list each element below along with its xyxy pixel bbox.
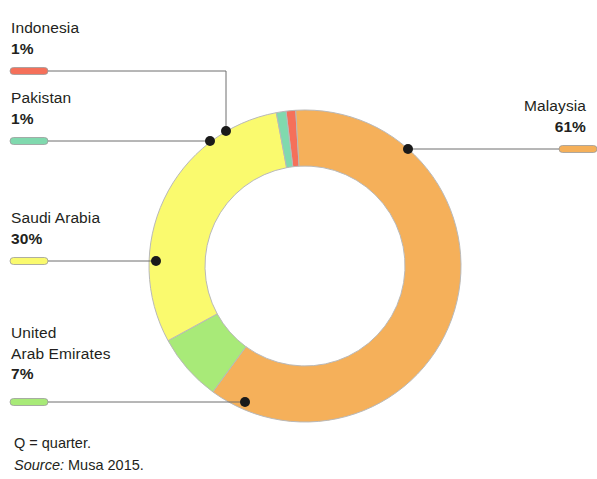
callout-label-uae-value: 7%: [11, 364, 111, 385]
donut-slices: [149, 110, 461, 422]
callout-label-indonesia: Indonesia 1%: [11, 18, 79, 59]
leader-line-indonesia: [46, 71, 226, 131]
leader-dot-pakistan: [205, 136, 215, 146]
leader-dot-malaysia: [403, 144, 413, 154]
legend-swatch-malaysia: [559, 146, 597, 153]
leader-dot-saudi-arabia: [151, 256, 161, 266]
legend-swatch-pakistan: [10, 138, 48, 145]
callout-label-indonesia-name: Indonesia: [11, 18, 79, 39]
callout-label-saudi-arabia-value: 30%: [11, 229, 100, 250]
donut-slice-saudi-arabia[interactable]: [149, 113, 287, 341]
callout-label-malaysia: Malaysia 61%: [524, 96, 586, 137]
footnote-quarter: Q = quarter.: [14, 432, 144, 454]
callout-label-saudi-arabia-name: Saudi Arabia: [11, 208, 100, 229]
leader-dot-united-arab-emirates: [240, 397, 250, 407]
leader-dot-indonesia: [221, 126, 231, 136]
legend-swatch-united-arab-emirates: [10, 399, 48, 406]
callout-label-saudi-arabia: Saudi Arabia 30%: [11, 208, 100, 249]
callout-label-pakistan-name: Pakistan: [11, 88, 71, 109]
donut-chart-figure: Indonesia 1% Pakistan 1% Saudi Arabia 30…: [0, 0, 597, 479]
callout-label-united-arab-emirates: United Arab Emirates 7%: [11, 323, 111, 385]
callout-label-malaysia-value: 61%: [524, 117, 586, 138]
callout-label-pakistan: Pakistan 1%: [11, 88, 71, 129]
callout-label-malaysia-name: Malaysia: [524, 96, 586, 117]
footnote-source: Source: Musa 2015.: [14, 454, 144, 476]
callout-label-uae-name-line2: Arab Emirates: [11, 344, 111, 365]
callout-label-pakistan-value: 1%: [11, 109, 71, 130]
footnote-source-prefix: Source:: [14, 457, 64, 473]
callout-label-indonesia-value: 1%: [11, 39, 79, 60]
legend-swatch-saudi-arabia: [10, 258, 48, 265]
callout-label-uae-name-line1: United: [11, 323, 111, 344]
footnotes: Q = quarter. Source: Musa 2015.: [14, 432, 144, 477]
footnote-source-text: Musa 2015.: [68, 457, 144, 473]
legend-swatch-indonesia: [10, 68, 48, 75]
